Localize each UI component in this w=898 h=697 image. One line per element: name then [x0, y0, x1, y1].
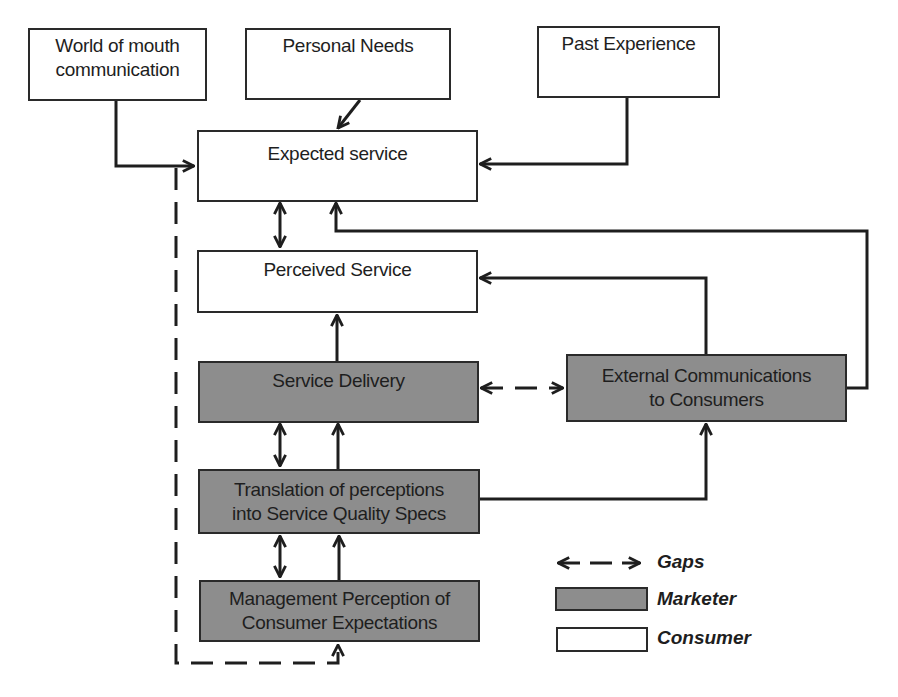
node-label: Expected service	[268, 142, 408, 166]
node-label: to Consumers	[649, 388, 764, 412]
gap-model-diagram: ext comm dashed --> World of mouth commu…	[0, 0, 898, 697]
edge-translation-to-external	[479, 424, 706, 499]
node-label: communication	[56, 58, 180, 82]
node-label: Service Delivery	[272, 369, 404, 393]
node-label: into Service Quality Specs	[232, 502, 446, 526]
node-translation-specs: Translation of perceptions into Service …	[198, 469, 480, 534]
node-label: Consumer Expectations	[242, 611, 437, 635]
edge-external-to-perceived	[480, 278, 706, 354]
edge-past-experience-to-expected	[480, 97, 627, 164]
node-label: Management Perception of	[229, 587, 450, 611]
node-word-of-mouth: World of mouth communication	[28, 28, 207, 101]
node-expected-service: Expected service	[197, 130, 478, 202]
node-label: External Communications	[602, 364, 812, 388]
legend-consumer-label: Consumer	[657, 627, 751, 649]
legend-marketer-label: Marketer	[657, 588, 736, 610]
node-service-delivery: Service Delivery	[198, 361, 479, 423]
edge-word-of-mouth-to-expected	[116, 100, 194, 166]
node-label: Personal Needs	[283, 34, 414, 58]
legend-gaps-label: Gaps	[657, 551, 705, 573]
node-label: Translation of perceptions	[234, 478, 444, 502]
node-label: World of mouth	[55, 34, 179, 58]
node-past-experience: Past Experience	[537, 26, 720, 98]
edge-personal-needs-to-expected	[338, 100, 360, 128]
node-personal-needs: Personal Needs	[245, 28, 451, 100]
node-management-perception: Management Perception of Consumer Expect…	[199, 580, 480, 642]
node-perceived-service: Perceived Service	[197, 250, 478, 313]
node-label: Past Experience	[562, 32, 696, 56]
node-label: Perceived Service	[263, 258, 411, 282]
legend-marketer-swatch	[555, 587, 648, 611]
node-external-communications: External Communications to Consumers	[566, 354, 847, 422]
legend-consumer-swatch	[556, 627, 648, 652]
